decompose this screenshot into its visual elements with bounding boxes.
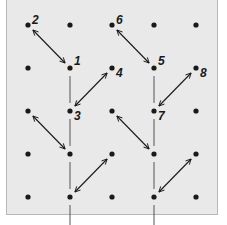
- grid-dot: [109, 194, 114, 199]
- grid-dot: [67, 22, 72, 27]
- point-label: 6: [116, 13, 123, 27]
- grid-dot: [67, 151, 72, 156]
- grid-dot: [67, 194, 72, 199]
- grid-dot: [25, 65, 30, 70]
- grid-dot: [151, 151, 156, 156]
- grid-dot: [193, 65, 198, 70]
- grid-dot: [193, 194, 198, 199]
- point-label: 4: [115, 66, 123, 80]
- grid-dot: [67, 108, 72, 113]
- double-arrow: [117, 30, 149, 63]
- double-arrow: [75, 73, 107, 106]
- double-arrow: [33, 30, 65, 63]
- grid-dot: [193, 108, 198, 113]
- grid-dot: [151, 22, 156, 27]
- grid-dot: [151, 65, 156, 70]
- grid-dot: [193, 22, 198, 27]
- double-arrow: [33, 116, 65, 149]
- grid-dot: [25, 151, 30, 156]
- grid-dot: [151, 108, 156, 113]
- point-label: 1: [74, 54, 81, 68]
- grid-dot: [67, 65, 72, 70]
- grid-dot: [25, 108, 30, 113]
- point-label: 5: [158, 54, 165, 68]
- point-label: 3: [74, 109, 81, 123]
- double-arrow: [117, 116, 149, 149]
- grid-dot: [109, 108, 114, 113]
- grid-dot: [25, 194, 30, 199]
- double-arrow: [159, 73, 191, 106]
- grid-dot: [109, 151, 114, 156]
- point-label: 8: [200, 66, 207, 80]
- grid-dot: [193, 151, 198, 156]
- double-arrow: [75, 159, 107, 192]
- point-label: 7: [158, 109, 166, 123]
- point-label: 2: [31, 13, 39, 27]
- grid-dot: [109, 65, 114, 70]
- grid-dot: [109, 22, 114, 27]
- grid-dot: [25, 22, 30, 27]
- dot-grid-diagram: 21436587: [0, 0, 227, 225]
- grid-dot: [151, 194, 156, 199]
- double-arrow: [159, 159, 191, 192]
